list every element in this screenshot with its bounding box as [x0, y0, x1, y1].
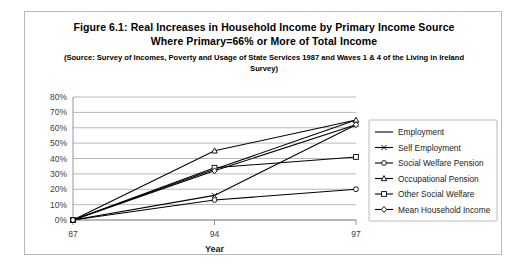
series-point-marker [212, 198, 217, 203]
y-axis-tick-label: 30% [50, 169, 67, 179]
x-axis-tick-label: 97 [351, 229, 361, 239]
y-axis-tick-label: 70% [50, 107, 67, 117]
legend-item-label: Occupational Pension [398, 174, 479, 184]
y-axis-tick-label: 20% [50, 184, 67, 194]
legend-item-label: Social Welfare Pension [398, 158, 484, 168]
series-point-marker [354, 187, 359, 192]
y-axis-tick-label: 0% [55, 215, 68, 225]
y-axis-tick-label: 50% [50, 138, 67, 148]
y-axis-tick-label: 80% [50, 92, 67, 102]
series-mean-household-income [70, 122, 358, 223]
x-axis-tick-label: 87 [68, 229, 78, 239]
x-axis-tick-label: 94 [210, 229, 220, 239]
series-point-marker [354, 155, 359, 160]
chart-container: Figure 6.1: Real Increases in Household … [24, 11, 502, 255]
y-axis-tick-label: 60% [50, 123, 67, 133]
series-other-social-welfare [71, 155, 359, 223]
y-axis-tick-label: 10% [50, 200, 67, 210]
y-axis-tick-label: 40% [50, 154, 67, 164]
legend-item-label: Employment [398, 127, 445, 137]
x-axis-title: Year [205, 244, 225, 254]
legend-item-label: Self Employment [398, 143, 461, 153]
legend-item-label: Other Social Welfare [398, 189, 475, 199]
legend-marker [382, 192, 387, 197]
legend-item-label: Mean Household Income [398, 205, 491, 215]
plot-area: 0%10%20%30%40%50%60%70%80%879497YearEmpl… [25, 12, 503, 256]
legend-marker [382, 161, 387, 166]
chart-svg: 0%10%20%30%40%50%60%70%80%879497YearEmpl… [25, 12, 503, 256]
